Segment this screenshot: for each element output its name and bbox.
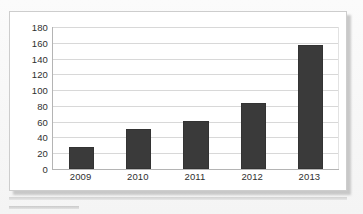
bar-2012[interactable] xyxy=(241,103,266,169)
bar-2010[interactable] xyxy=(126,129,151,169)
y-tick-label-120: 120 xyxy=(32,69,48,80)
x-tick-label-2010: 2010 xyxy=(127,171,149,182)
caption-rule-short xyxy=(9,206,79,209)
y-tick-label-20: 20 xyxy=(37,148,48,159)
y-tick-label-80: 80 xyxy=(37,100,48,111)
y-tick-label-140: 140 xyxy=(32,53,48,64)
bar-series xyxy=(53,27,339,169)
caption-rule-long xyxy=(9,197,347,200)
screenshot-root: 0 20 40 60 80 100 120 140 160 180 xyxy=(0,0,363,214)
y-tick-label-100: 100 xyxy=(32,85,48,96)
y-tick-label-40: 40 xyxy=(37,132,48,143)
bar-2009[interactable] xyxy=(69,147,94,169)
y-tick-label-0: 0 xyxy=(43,164,48,175)
y-axis-tick-labels: 0 20 40 60 80 100 120 140 160 180 xyxy=(16,27,48,169)
x-axis-tick-labels: 2009 2010 2011 2012 2013 xyxy=(52,171,338,187)
chart-figure-frame: 0 20 40 60 80 100 120 140 160 180 xyxy=(9,11,347,191)
x-tick-label-2012: 2012 xyxy=(241,171,263,182)
chart-canvas: 0 20 40 60 80 100 120 140 160 180 xyxy=(10,12,346,190)
bar-2013[interactable] xyxy=(298,45,323,169)
bar-2011[interactable] xyxy=(183,121,208,169)
y-tick-label-160: 160 xyxy=(32,37,48,48)
x-tick-label-2013: 2013 xyxy=(299,171,321,182)
y-tick-label-180: 180 xyxy=(32,22,48,33)
x-tick-label-2011: 2011 xyxy=(185,171,206,182)
y-tick-label-60: 60 xyxy=(37,116,48,127)
x-tick-label-2009: 2009 xyxy=(70,171,92,182)
plot-area xyxy=(52,27,339,170)
